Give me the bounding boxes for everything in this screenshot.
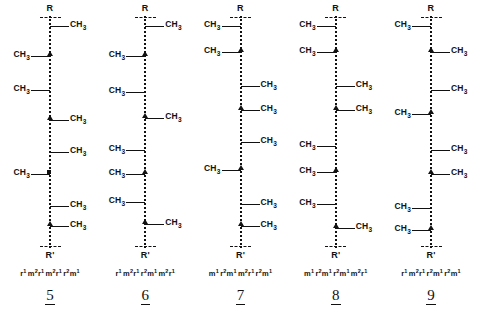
terminus-label-r-prime: R'	[195, 251, 287, 260]
methyl-bond	[431, 174, 450, 175]
methyl-text: CH	[356, 79, 369, 89]
methyl-text: CH	[204, 45, 217, 55]
methyl-text: CH	[299, 19, 312, 29]
structure-numeral-text: 7	[236, 287, 246, 305]
terminus-label-r-prime: R'	[99, 251, 191, 260]
methyl-subscript: 3	[83, 118, 87, 125]
methyl-subscript: 3	[83, 204, 87, 211]
methyl-subscript: 3	[312, 24, 316, 31]
methyl-bond	[336, 86, 355, 87]
methyl-subscript: 3	[178, 116, 182, 123]
methyl-text: CH	[299, 197, 312, 207]
methyl-subscript: 3	[312, 144, 316, 151]
methyl-subscript: 3	[273, 84, 277, 91]
methyl-text: CH	[165, 217, 178, 227]
methyl-label: CH3	[70, 114, 87, 125]
methyl-bond	[126, 150, 145, 151]
methyl-subscript: 3	[464, 148, 468, 155]
methyl-text: CH	[356, 221, 369, 231]
notation-group: r2m1	[256, 269, 273, 278]
stereo-marker	[428, 109, 434, 114]
methyl-text: CH	[394, 19, 407, 29]
methyl-subscript: 3	[312, 170, 316, 177]
methyl-subscript: 3	[217, 24, 221, 31]
methyl-text: CH	[299, 139, 312, 149]
methyl-subscript: 3	[26, 54, 30, 61]
methyl-bond	[336, 110, 355, 111]
methyl-subscript: 3	[273, 140, 277, 147]
methyl-label: CH3	[70, 146, 87, 157]
stereo-marker	[142, 219, 148, 224]
methyl-subscript: 3	[273, 108, 277, 115]
notation-group: r2m1	[315, 269, 332, 278]
terminus-label-r-prime: R'	[4, 251, 96, 260]
methyl-subscript: 3	[464, 172, 468, 179]
stereo-marker	[333, 47, 339, 52]
structure-9: RCH3CH3CH3CH3CH3CH3CH3CH3R'r1m2r1r2m1r2m…	[385, 0, 477, 333]
methyl-label: CH3	[356, 222, 373, 233]
methyl-bond	[412, 26, 431, 27]
methyl-text: CH	[109, 49, 122, 59]
notation-group: r1	[115, 269, 121, 278]
methyl-bond	[126, 92, 145, 93]
methyl-bond	[317, 204, 336, 205]
methyl-text: CH	[356, 103, 369, 113]
methyl-bond	[412, 114, 431, 115]
methyl-subscript: 3	[312, 202, 316, 209]
methyl-bond	[222, 52, 241, 53]
notation-group: r1	[401, 269, 407, 278]
methyl-label: CH3	[451, 144, 468, 155]
methyl-bond	[317, 52, 336, 53]
methyl-text: CH	[70, 145, 83, 155]
terminus-cap-bottom	[40, 246, 61, 247]
methyl-text: CH	[261, 197, 274, 207]
methyl-text: CH	[13, 167, 26, 177]
methyl-text: CH	[70, 219, 83, 229]
stereo-marker	[142, 169, 148, 174]
methyl-text: CH	[13, 83, 26, 93]
methyl-text: CH	[109, 167, 122, 177]
methyl-bond	[145, 118, 164, 119]
stereo-marker	[428, 169, 434, 174]
stereo-marker	[428, 47, 434, 52]
notation-group: m2r1	[409, 269, 426, 278]
chain-area: RCH3CH3CH3CH3CH3CH3CH3CH3R'	[195, 0, 287, 262]
structure-8: RCH3CH3CH3CH3CH3CH3CH3CH3R'm1r2m1r2m1m2r…	[290, 0, 382, 333]
tacticity-notation: r1m2r1m2r1r2m1	[4, 268, 96, 277]
methyl-label: CH3	[299, 198, 316, 209]
chain-area: RCH3CH3CH3CH3CH3CH3CH3CH3R'	[290, 0, 382, 262]
stereo-marker	[47, 51, 53, 56]
methyl-text: CH	[261, 79, 274, 89]
stereo-marker	[333, 223, 339, 228]
methyl-bond	[31, 174, 50, 175]
methyl-subscript: 3	[83, 24, 87, 31]
methyl-label: CH3	[356, 104, 373, 115]
methyl-subscript: 3	[26, 172, 30, 179]
notation-group: m2r1	[351, 269, 368, 278]
structure-numeral-text: 9	[426, 287, 436, 305]
methyl-text: CH	[109, 85, 122, 95]
methyl-text: CH	[299, 45, 312, 55]
methyl-subscript: 3	[217, 50, 221, 57]
notation-group: m2r1	[123, 269, 140, 278]
terminus-label-r: R	[4, 4, 96, 13]
methyl-label: CH3	[204, 164, 221, 175]
methyl-label: CH3	[299, 46, 316, 57]
structure-numeral: 7	[195, 288, 287, 303]
terminus-cap-bottom	[325, 246, 346, 247]
methyl-text: CH	[70, 199, 83, 209]
structure-numeral: 9	[385, 288, 477, 303]
methyl-bond	[317, 26, 336, 27]
methyl-bond	[50, 152, 69, 153]
methyl-bond	[126, 56, 145, 57]
notation-group: m2r1	[28, 269, 45, 278]
methyl-text: CH	[204, 19, 217, 29]
methyl-subscript: 3	[464, 50, 468, 57]
methyl-subscript: 3	[83, 150, 87, 157]
methyl-subscript: 3	[273, 202, 277, 209]
methyl-bond	[50, 226, 69, 227]
tacticity-notation: m1r2m1m2r1r2m1	[195, 268, 287, 277]
methyl-bond	[431, 52, 450, 53]
methyl-subscript: 3	[407, 228, 411, 235]
methyl-text: CH	[261, 103, 274, 113]
